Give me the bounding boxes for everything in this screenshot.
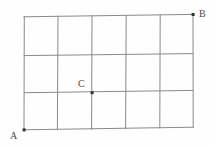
point-label-c: C — [78, 79, 85, 89]
point-dot-B — [192, 13, 195, 16]
grid-line-h-top — [24, 14, 193, 16]
grid-line-h-1 — [24, 54, 193, 56]
point-label-a: A — [10, 131, 17, 141]
point-label-b: B — [199, 9, 206, 19]
grid-canvas — [0, 0, 215, 147]
geometry-grid-figure: A B C — [0, 0, 215, 147]
point-markers — [23, 13, 195, 131]
vertical-grid-lines — [24, 14, 193, 130]
horizontal-grid-lines — [24, 14, 193, 129]
grid-line-h-bottom — [24, 127, 193, 130]
grid-line-h-2 — [24, 90, 193, 92]
grid-line-v-3 — [126, 15, 127, 128]
point-dot-A — [23, 128, 26, 131]
point-dot-C — [91, 91, 94, 94]
grid-line-v-1 — [57, 16, 58, 129]
